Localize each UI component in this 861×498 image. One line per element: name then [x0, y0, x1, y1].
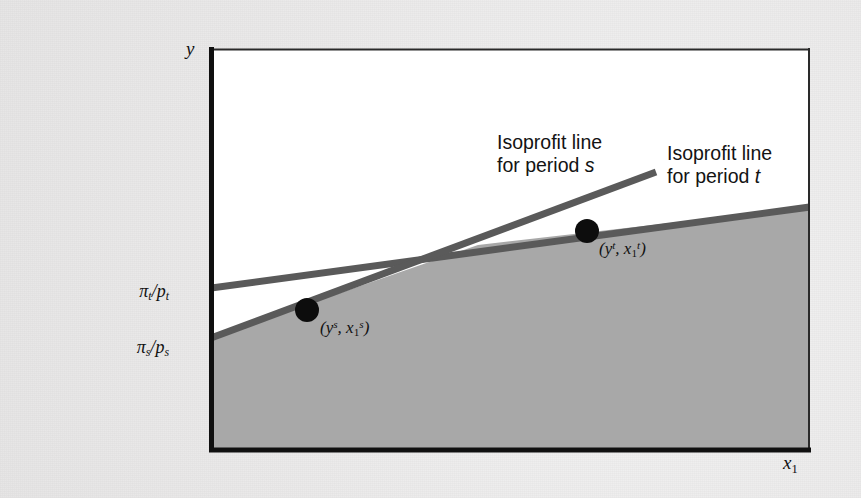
isoprofit-diagram	[0, 0, 861, 498]
intercept-s-denominator-subscript: s	[164, 345, 169, 359]
intercept-t-denominator-subscript: t	[166, 289, 169, 303]
point-t-close-paren: )	[640, 239, 646, 258]
intercept-label-period-s: πs/ps	[137, 337, 169, 359]
point-t-separator: ,	[615, 239, 624, 258]
callout-s-line2: for period s	[497, 154, 602, 177]
intercept-s-numerator-subscript: s	[146, 345, 151, 359]
axis-x-label: x1	[783, 452, 798, 476]
axis-x-label-subscript: 1	[791, 462, 797, 476]
point-label-t: (yt, x1t)	[599, 239, 646, 260]
callout-t-period-symbol: t	[755, 165, 760, 187]
point-t	[575, 219, 599, 243]
point-s-x-var: x	[346, 318, 354, 337]
intercept-t-denominator: p	[157, 281, 166, 301]
point-s-close-paren: )	[364, 318, 370, 337]
point-s	[295, 298, 319, 322]
axis-y-label: y	[186, 38, 194, 60]
callout-isoprofit-line-period-t: Isoprofit line for period t	[667, 142, 772, 188]
callout-s-period-symbol: s	[585, 154, 595, 176]
callout-isoprofit-line-period-s: Isoprofit line for period s	[497, 131, 602, 177]
intercept-s-numerator: π	[137, 337, 146, 357]
point-s-separator: ,	[338, 318, 347, 337]
callout-t-line2-prefix: for period	[667, 165, 755, 187]
intercept-label-period-t: πt/pt	[139, 281, 169, 303]
intercept-t-numerator-subscript: t	[148, 289, 151, 303]
callout-t-line1: Isoprofit line	[667, 142, 772, 165]
callout-s-line1: Isoprofit line	[497, 131, 602, 154]
intercept-t-numerator: π	[139, 281, 148, 301]
point-label-s: (ys, x1s)	[320, 318, 369, 339]
callout-t-line2: for period t	[667, 165, 772, 188]
callout-s-line2-prefix: for period	[497, 154, 585, 176]
